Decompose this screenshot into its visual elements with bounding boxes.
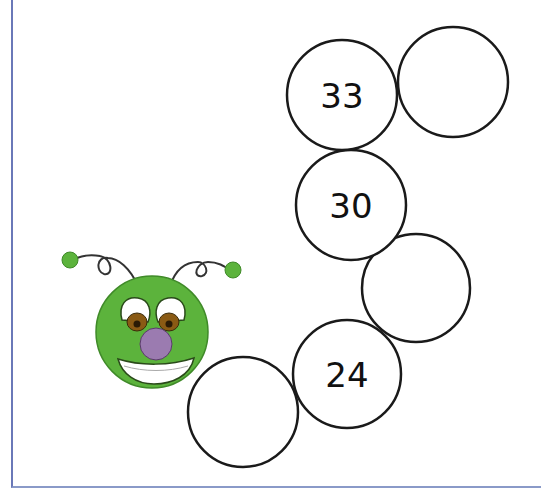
antenna-left-ball: [62, 252, 78, 268]
nose-icon: [140, 328, 172, 360]
circle-label-30: 30: [329, 186, 372, 226]
antenna-right-ball: [225, 262, 241, 278]
circle-label-33: 33: [320, 76, 363, 116]
circle-label-24: 24: [325, 355, 368, 395]
body-circle-6-empty[interactable]: [398, 27, 508, 137]
body-circle-1-empty[interactable]: [188, 357, 298, 467]
